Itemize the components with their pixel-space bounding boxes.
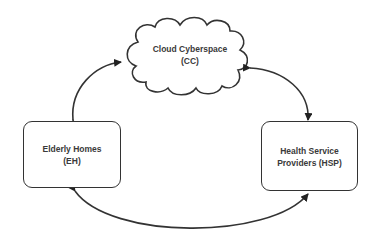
cloud-label-line2: (CC) [140,55,240,67]
arrow-eh-hsp [75,191,308,228]
diagram-canvas [0,0,376,240]
cloud-label-line1: Cloud Cyberspace [140,43,240,55]
hsp-label-line1: Health Service [261,145,358,157]
eh-label-line2: (EH) [23,155,121,167]
elderly-homes-label: Elderly Homes (EH) [23,143,121,167]
cloud-label: Cloud Cyberspace (CC) [140,43,240,67]
eh-label-line1: Elderly Homes [23,143,121,155]
hsp-label-line2: Providers (HSP) [261,157,358,169]
hsp-label: Health Service Providers (HSP) [261,145,358,169]
arrow-eh-cc [73,62,121,120]
arrow-cc-hsp [250,68,308,120]
